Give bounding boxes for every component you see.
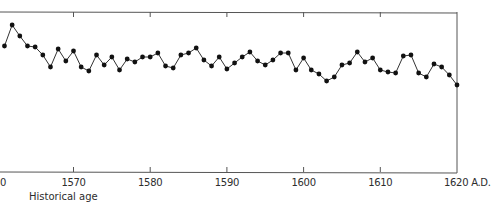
data-point xyxy=(94,53,99,58)
data-point xyxy=(178,53,183,58)
data-point xyxy=(263,63,268,68)
x-tick-label: 0 xyxy=(0,177,6,188)
x-axis-label: Historical age xyxy=(29,191,98,202)
data-point xyxy=(432,62,437,67)
data-point xyxy=(240,55,245,60)
x-tick-label: 1590 xyxy=(215,177,239,188)
data-point xyxy=(439,65,444,70)
data-point xyxy=(248,50,253,55)
data-point xyxy=(416,71,421,76)
data-point xyxy=(286,51,291,56)
data-point xyxy=(355,50,360,55)
data-point xyxy=(340,63,345,68)
data-point xyxy=(117,68,122,73)
data-point xyxy=(301,56,306,61)
data-point xyxy=(140,55,145,60)
data-point xyxy=(148,55,153,60)
data-point xyxy=(225,67,230,72)
data-point xyxy=(186,51,191,56)
x-tick-label: 1610 xyxy=(368,177,392,188)
data-point xyxy=(209,64,214,69)
data-point xyxy=(386,70,391,75)
data-point xyxy=(317,72,322,77)
data-point xyxy=(79,65,84,70)
data-point xyxy=(86,69,91,74)
data-point xyxy=(294,68,299,73)
data-point xyxy=(201,58,206,63)
data-point xyxy=(48,65,53,70)
x-tick-label: 1570 xyxy=(61,177,85,188)
data-point xyxy=(33,45,38,50)
data-point xyxy=(125,57,130,62)
data-point xyxy=(56,47,61,52)
data-point xyxy=(370,56,375,61)
data-point xyxy=(2,44,7,49)
data-point xyxy=(194,46,199,51)
data-point xyxy=(347,61,352,66)
data-point xyxy=(255,59,260,64)
data-point xyxy=(409,53,414,58)
data-point xyxy=(132,60,137,65)
data-point xyxy=(25,44,30,49)
axis-ticks xyxy=(74,12,381,172)
data-point xyxy=(40,53,45,58)
data-point xyxy=(332,75,337,80)
data-point xyxy=(455,83,460,88)
x-tick-label: 1600 xyxy=(291,177,315,188)
data-point xyxy=(102,63,107,68)
data-point xyxy=(155,51,160,56)
x-tick-label: 1580 xyxy=(138,177,162,188)
data-point xyxy=(424,75,429,80)
data-point xyxy=(217,55,222,60)
data-point xyxy=(163,64,168,69)
data-point xyxy=(17,34,22,39)
series-line xyxy=(4,25,457,85)
data-point xyxy=(378,68,383,73)
data-point xyxy=(271,58,276,63)
data-point xyxy=(63,59,68,64)
data-point xyxy=(447,73,452,78)
x-tick-label: 1620 A.D. xyxy=(444,177,491,188)
data-point xyxy=(278,51,283,56)
data-point xyxy=(363,60,368,65)
data-point xyxy=(10,23,15,28)
data-point xyxy=(71,49,76,54)
data-point xyxy=(309,68,314,73)
data-point xyxy=(232,61,237,66)
data-point xyxy=(171,66,176,71)
data-point xyxy=(324,79,329,84)
data-point xyxy=(109,55,114,60)
chart-frame xyxy=(0,12,457,173)
data-point xyxy=(393,71,398,76)
data-point xyxy=(401,54,406,59)
